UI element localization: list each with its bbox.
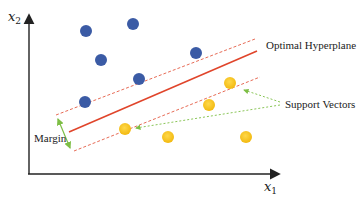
support-vector-point xyxy=(119,123,131,135)
hyperplane-label: Optimal Hyperplane xyxy=(266,39,356,51)
x-axis-label: x1 xyxy=(264,179,277,196)
class-b-point xyxy=(162,131,174,143)
class-a-point xyxy=(127,18,139,30)
svm-diagram: x2 x1 Optimal Hyperplane Support Vectors… xyxy=(0,0,361,200)
support-vector-arrow xyxy=(244,90,280,102)
class-b-point xyxy=(240,131,252,143)
support-vector-point xyxy=(224,77,236,89)
class-a-point xyxy=(133,73,145,85)
class-a-point xyxy=(95,54,107,66)
support-vectors-label: Support Vectors xyxy=(285,98,355,110)
class-b-point xyxy=(203,99,215,111)
class-a-point xyxy=(80,25,92,37)
class-a-point xyxy=(79,96,91,108)
margin-label: Margin xyxy=(34,132,67,144)
class-a-point xyxy=(190,47,202,59)
y-axis-label: x2 xyxy=(8,9,21,26)
